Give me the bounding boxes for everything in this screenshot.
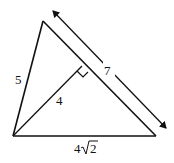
right-angle-mark bbox=[77, 71, 88, 77]
altitude-line bbox=[13, 66, 82, 136]
side-right bbox=[43, 21, 156, 136]
label-base: 4 2 bbox=[74, 141, 98, 156]
label-dimension: 7 bbox=[104, 63, 111, 78]
label-base-radicand: 2 bbox=[90, 141, 97, 156]
label-altitude: 4 bbox=[56, 93, 63, 108]
label-base-coef: 4 bbox=[74, 141, 81, 156]
label-left-side: 5 bbox=[15, 72, 22, 87]
geometry-diagram: 5 4 7 4 2 bbox=[0, 0, 174, 163]
